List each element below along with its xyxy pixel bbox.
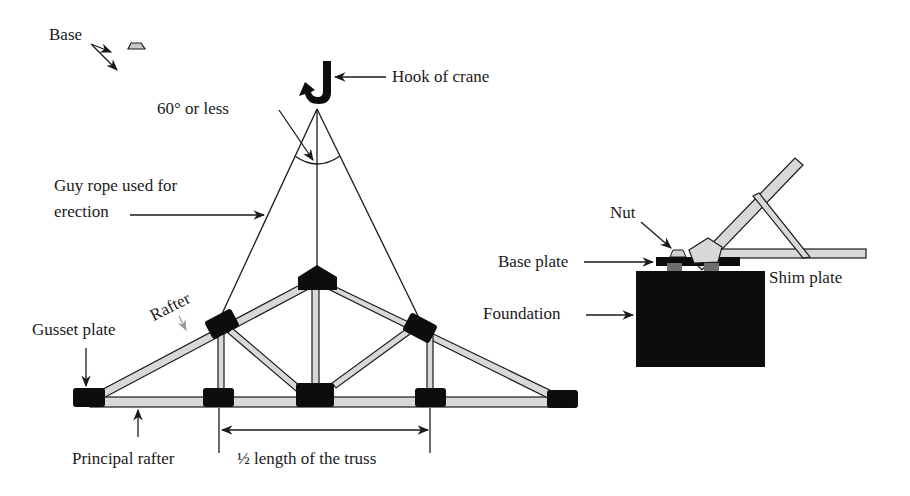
hook-label: Hook of crane xyxy=(392,67,489,86)
principal-rafter-label: Principal rafter xyxy=(72,449,175,468)
gusset-plate-right-end xyxy=(547,390,578,408)
half-length-label: ½ length of the truss xyxy=(237,449,376,468)
rafter-left-member xyxy=(90,277,318,403)
gusset-legend: Gusset plate xyxy=(32,320,116,386)
rafter-arrow xyxy=(179,316,186,330)
rafter-legend: Rafter xyxy=(147,288,194,330)
nut-icon xyxy=(670,250,686,257)
diagonal-left-member xyxy=(228,328,300,391)
diagonal-right-member xyxy=(332,329,410,388)
guy-rope-label-line2: erection xyxy=(54,202,109,221)
half-length-dimension: ½ length of the truss xyxy=(219,408,430,468)
guy-rope-label-line1: Guy rope used for xyxy=(54,176,178,195)
angle-label: 60° or less xyxy=(157,99,229,118)
shim-plate-label: Shim plate xyxy=(769,268,842,287)
principal-rafter-legend: Principal rafter xyxy=(72,410,175,468)
base-plate-label: Base plate xyxy=(498,252,568,271)
truss-diagram: Base Hook of crane 60° or less Guy rope … xyxy=(0,0,910,496)
foundation-block xyxy=(636,271,765,367)
gusset-plate-apex xyxy=(298,265,337,290)
hook-icon xyxy=(299,61,331,104)
base-legend: Base xyxy=(49,25,145,70)
crane-hook: Hook of crane xyxy=(299,61,489,104)
gusset-plate-bottom-right xyxy=(415,388,446,407)
support-detail xyxy=(636,158,866,367)
shim-plate-right xyxy=(704,263,719,271)
guy-ropes: 60° or less xyxy=(157,99,420,320)
gusset-plate-label: Gusset plate xyxy=(32,320,116,339)
gusset-plates xyxy=(73,265,578,408)
nut-arrow xyxy=(641,222,671,248)
foundation-label: Foundation xyxy=(483,304,561,323)
base-symbol-icon xyxy=(128,43,145,49)
angle-arrow xyxy=(279,110,313,160)
rafter-right-member xyxy=(315,277,562,403)
vertical-center-member xyxy=(312,280,319,384)
nut-label: Nut xyxy=(610,203,636,222)
base-arrow-1 xyxy=(91,44,111,52)
gusset-plate-bottom-center xyxy=(296,383,334,407)
base-label: Base xyxy=(49,25,82,44)
guy-rope-legend: Guy rope used for erection xyxy=(54,176,264,221)
gusset-plate-left-end xyxy=(73,388,105,407)
gusset-plate-bottom-left xyxy=(203,388,234,407)
shim-plate-left xyxy=(667,263,682,271)
detail-chord-member xyxy=(715,249,866,258)
detail-web-member xyxy=(753,193,810,258)
rafter-label: Rafter xyxy=(147,288,194,324)
